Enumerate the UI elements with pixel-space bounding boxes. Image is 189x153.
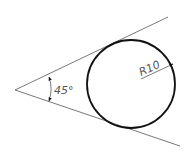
upper-tangent-line	[15, 17, 168, 90]
circle	[87, 40, 175, 128]
drawing-canvas: 45° R10	[0, 0, 189, 153]
angle-label: 45°	[54, 84, 74, 97]
radius-label: R10	[137, 58, 162, 79]
angle-dimension-arc	[49, 77, 51, 101]
lower-tangent-line	[15, 90, 180, 146]
